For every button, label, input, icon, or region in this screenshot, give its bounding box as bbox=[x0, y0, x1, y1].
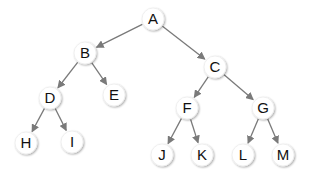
edge-d-i bbox=[55, 109, 66, 131]
node-h: H bbox=[15, 132, 37, 154]
node-i: I bbox=[61, 131, 83, 153]
node-a: A bbox=[142, 8, 164, 30]
edge-b-d bbox=[58, 62, 78, 87]
edge-a-b bbox=[97, 24, 143, 47]
edge-group bbox=[32, 24, 278, 143]
node-group: ABCDEFGHIJKLM bbox=[15, 8, 294, 166]
node-label: K bbox=[197, 146, 207, 163]
edge-f-k bbox=[191, 119, 198, 142]
node-b: B bbox=[74, 42, 96, 64]
node-label: A bbox=[148, 10, 158, 27]
tree-diagram: ABCDEFGHIJKLM bbox=[0, 0, 310, 174]
edge-c-g bbox=[224, 75, 253, 100]
node-label: M bbox=[277, 146, 290, 163]
edge-d-h bbox=[32, 109, 44, 132]
node-label: J bbox=[158, 146, 166, 163]
node-label: C bbox=[210, 58, 221, 75]
edge-b-e bbox=[92, 63, 107, 84]
node-label: L bbox=[239, 146, 247, 163]
node-label: I bbox=[70, 133, 74, 150]
node-label: F bbox=[182, 99, 191, 116]
node-label: B bbox=[80, 44, 90, 61]
node-k: K bbox=[191, 144, 213, 166]
edge-a-c bbox=[162, 26, 204, 59]
edge-f-j bbox=[168, 119, 181, 144]
node-m: M bbox=[272, 144, 294, 166]
node-label: E bbox=[109, 86, 119, 103]
edge-c-f bbox=[194, 77, 208, 97]
node-j: J bbox=[151, 144, 173, 166]
node-d: D bbox=[39, 87, 61, 109]
node-label: D bbox=[45, 89, 56, 106]
edge-g-l bbox=[248, 119, 258, 143]
node-f: F bbox=[176, 97, 198, 119]
node-label: H bbox=[21, 134, 32, 151]
node-c: C bbox=[204, 56, 226, 78]
node-label: G bbox=[257, 99, 269, 116]
edge-g-m bbox=[268, 119, 278, 143]
node-e: E bbox=[103, 84, 125, 106]
node-g: G bbox=[252, 97, 274, 119]
node-l: L bbox=[232, 144, 254, 166]
